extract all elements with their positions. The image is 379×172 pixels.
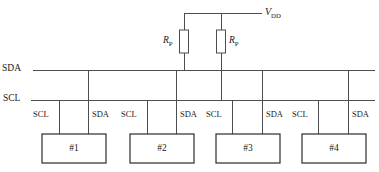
- device-2-sda-pin-label: SDA: [180, 110, 197, 119]
- device-4-sda-pin-label: SDA: [352, 110, 369, 119]
- rp-sda-label: RP: [163, 36, 173, 48]
- vdd-subscript: DD: [271, 12, 281, 19]
- rp-scl-label: RP: [229, 36, 239, 48]
- device-4-scl-pin-label: SCL: [292, 110, 308, 119]
- rp-sda-subscript: P: [169, 40, 173, 47]
- i2c-bus-diagram: VDD RP RP SDA SCL SCL SDA SCL SDA SCL SD…: [0, 0, 379, 172]
- device-1-sda-pin-label: SDA: [92, 110, 109, 119]
- device-3-label: #3: [216, 144, 280, 154]
- scl-bus-label: SCL: [3, 94, 20, 104]
- device-1-label: #1: [42, 144, 106, 154]
- rp-scl-body: [217, 30, 226, 53]
- device-2-label: #2: [130, 144, 194, 154]
- device-1-scl-pin-label: SCL: [33, 110, 49, 119]
- sda-bus-label: SDA: [2, 64, 21, 74]
- rp-sda-body: [180, 30, 189, 53]
- device-4-label: #4: [302, 144, 366, 154]
- rp-scl-subscript: P: [235, 40, 239, 47]
- device-3-sda-pin-label: SDA: [266, 110, 283, 119]
- device-2-scl-pin-label: SCL: [121, 110, 137, 119]
- device-3-scl-pin-label: SCL: [206, 110, 222, 119]
- vdd-rail-label: VDD: [265, 7, 281, 20]
